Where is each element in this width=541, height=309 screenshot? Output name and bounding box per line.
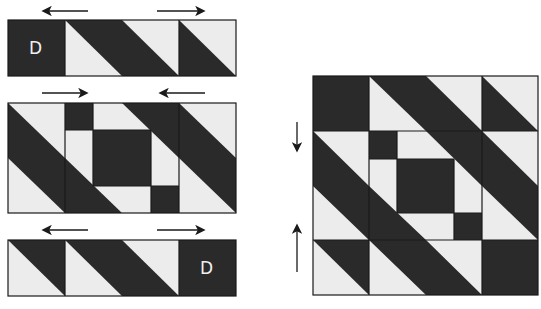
unit-label-d-top: D xyxy=(29,38,42,58)
quilt-diagram xyxy=(0,0,541,309)
finished-block xyxy=(297,76,538,295)
top-row xyxy=(8,11,236,76)
unit-label-d-bottom: D xyxy=(200,258,213,278)
middle-row xyxy=(8,93,236,213)
